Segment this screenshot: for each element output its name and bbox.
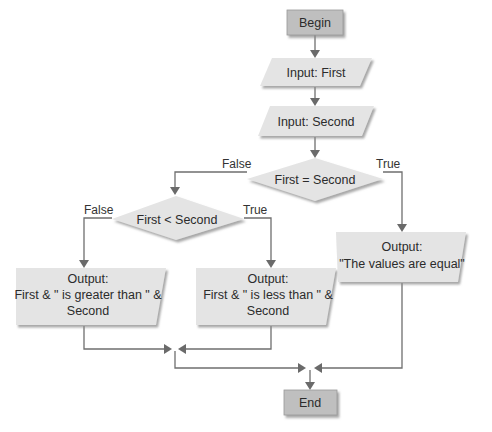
- node-input-second: Input: Second: [258, 106, 374, 136]
- node-decision-equal: First = Second: [247, 158, 383, 201]
- end-label: End: [299, 396, 321, 410]
- decision-less-label: First < Second: [137, 213, 218, 227]
- input-second-label: Input: Second: [277, 115, 354, 129]
- output-greater-line2: First & " is greater than " &: [14, 288, 162, 302]
- node-decision-less: First < Second: [112, 196, 244, 240]
- decision-equal-label: First = Second: [275, 173, 356, 187]
- output-greater-line3: Second: [67, 304, 109, 318]
- arrow-head-icon: [397, 224, 407, 232]
- edge-label-less-false: False: [84, 203, 114, 217]
- node-end: End: [284, 390, 337, 415]
- edge-label-equal-true: True: [376, 157, 401, 171]
- arrow-head-icon: [298, 363, 306, 373]
- edge-less-false: [84, 218, 112, 262]
- node-output-greater: Output: First & " is greater than " & Se…: [14, 268, 166, 325]
- edge-label-less-true: True: [243, 203, 268, 217]
- edge-less-to-merge: [184, 326, 271, 349]
- arrow-head-icon: [305, 382, 315, 390]
- arrow-head-icon: [310, 98, 320, 106]
- edge-equal-true: [383, 172, 402, 226]
- output-less-line2: First & " is less than " &: [203, 288, 333, 302]
- edge-less-true: [244, 218, 271, 262]
- arrow-head-icon: [170, 187, 180, 195]
- node-begin: Begin: [287, 10, 343, 35]
- output-less-line1: Output:: [248, 272, 289, 286]
- begin-label: Begin: [299, 16, 331, 30]
- arrow-head-icon: [178, 344, 186, 354]
- output-less-line3: Second: [247, 304, 289, 318]
- arrow-head-icon: [266, 260, 276, 268]
- node-output-less: Output: First & " is less than " & Secon…: [196, 268, 336, 325]
- output-greater-line1: Output:: [68, 272, 109, 286]
- arrow-head-icon: [314, 363, 322, 373]
- edge-equal-false: [175, 172, 247, 189]
- input-first-label: Input: First: [286, 66, 346, 80]
- edge-greater-to-merge: [84, 326, 166, 349]
- output-equal-line2: "The values are equal": [339, 257, 465, 271]
- edge-label-equal-false: False: [222, 157, 252, 171]
- node-output-equal: Output: "The values are equal": [336, 232, 466, 282]
- arrow-head-icon: [79, 260, 89, 268]
- arrow-head-icon: [310, 50, 320, 58]
- flowchart: False True False True Begin Input: First…: [0, 0, 492, 432]
- arrow-head-icon: [310, 150, 320, 158]
- node-input-first: Input: First: [260, 58, 372, 86]
- arrow-head-icon: [164, 344, 172, 354]
- output-equal-line1: Output:: [382, 240, 423, 254]
- edge-merge1-to-merge2: [175, 351, 300, 368]
